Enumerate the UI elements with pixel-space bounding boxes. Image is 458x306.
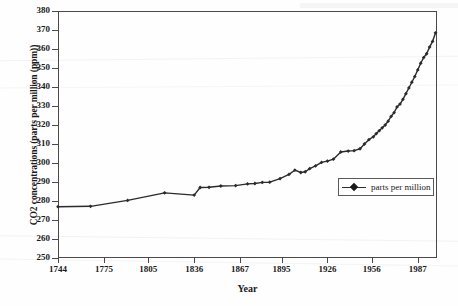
x-tick-label: 1867 bbox=[217, 264, 263, 274]
y-tick-label: 380 bbox=[0, 5, 58, 17]
data-point bbox=[326, 159, 330, 163]
x-tick-mark bbox=[372, 258, 373, 263]
x-tick-label: 1926 bbox=[304, 264, 350, 274]
legend-marker-icon bbox=[342, 182, 366, 192]
data-point bbox=[163, 191, 167, 195]
data-point bbox=[234, 184, 238, 188]
x-tick-label: 1836 bbox=[171, 264, 217, 274]
scan-artifact-smudge bbox=[300, 3, 458, 8]
x-tick-label: 1744 bbox=[35, 264, 81, 274]
x-axis-title: Year bbox=[58, 283, 437, 294]
y-tick-label: 290 bbox=[0, 176, 58, 188]
data-point bbox=[352, 149, 356, 153]
x-tick-label: 1956 bbox=[349, 264, 395, 274]
y-tick-label: 260 bbox=[0, 233, 58, 245]
y-tick-label: 350 bbox=[0, 62, 58, 74]
y-tick-label: 300 bbox=[0, 157, 58, 169]
chart-legend[interactable]: parts per million bbox=[338, 178, 434, 196]
x-tick-mark bbox=[58, 258, 59, 263]
y-tick-label: 310 bbox=[0, 138, 58, 150]
data-point bbox=[126, 199, 130, 203]
x-tick-mark bbox=[282, 258, 283, 263]
x-tick-label: 1895 bbox=[259, 264, 305, 274]
data-point bbox=[260, 180, 264, 184]
x-tick-mark bbox=[148, 258, 149, 263]
y-tick-label: 370 bbox=[0, 24, 58, 36]
co2-line-chart: CO2 concentrations (parts per million (p… bbox=[0, 0, 458, 306]
data-point bbox=[89, 204, 93, 208]
data-point bbox=[299, 171, 303, 175]
legend-label: parts per million bbox=[371, 182, 431, 192]
y-tick-label: 360 bbox=[0, 43, 58, 55]
data-point bbox=[219, 184, 223, 188]
x-tick-label: 1987 bbox=[395, 264, 441, 274]
series-layer bbox=[58, 11, 437, 258]
x-tick-mark bbox=[240, 258, 241, 263]
x-tick-label: 1775 bbox=[81, 264, 127, 274]
data-point bbox=[434, 31, 438, 35]
data-point bbox=[253, 182, 257, 186]
x-tick-mark bbox=[104, 258, 105, 263]
x-tick-mark bbox=[418, 258, 419, 263]
y-tick-label: 270 bbox=[0, 214, 58, 226]
y-tick-label: 330 bbox=[0, 100, 58, 112]
y-tick-label: 340 bbox=[0, 81, 58, 93]
data-point bbox=[207, 185, 211, 189]
x-tick-mark bbox=[194, 258, 195, 263]
y-tick-label: 280 bbox=[0, 195, 58, 207]
y-tick-label: 250 bbox=[0, 252, 58, 264]
data-point bbox=[246, 182, 250, 186]
data-point bbox=[268, 180, 272, 184]
x-tick-mark bbox=[327, 258, 328, 263]
data-point bbox=[346, 149, 350, 153]
y-tick-label: 320 bbox=[0, 119, 58, 131]
x-tick-label: 1805 bbox=[125, 264, 171, 274]
